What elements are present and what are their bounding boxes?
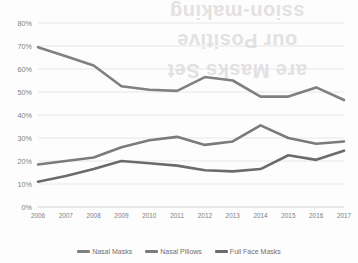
gridlines [38, 23, 344, 207]
y-axis-tick-label: 30% [18, 134, 33, 143]
x-axis-tick-label: 2009 [114, 212, 129, 219]
x-axis-tick-label: 2017 [337, 212, 352, 219]
x-axis-tick-label: 2013 [226, 212, 241, 219]
x-axis-tick-label: 2006 [31, 212, 46, 219]
x-axis-tick-label: 2010 [142, 212, 157, 219]
x-axis-tick-label: 2014 [253, 212, 268, 219]
x-axis-tick-label: 2016 [309, 212, 324, 219]
y-axis-tick-label: 20% [18, 157, 33, 166]
x-axis-tick-label: 2012 [198, 212, 213, 219]
y-axis-tick-labels: 0%10%20%30%40%50%60%70%80% [18, 19, 33, 212]
x-axis-tick-label: 2011 [170, 212, 184, 219]
data-series-lines [38, 47, 344, 182]
y-axis-tick-label: 10% [18, 180, 33, 189]
plot-area: 0%10%20%30%40%50%60%70%80% 2006200720082… [0, 0, 358, 263]
y-axis-tick-label: 60% [18, 65, 33, 74]
legend-swatch-icon [215, 250, 228, 253]
legend-label: Nasal Masks [92, 248, 132, 255]
y-axis-tick-label: 50% [18, 88, 33, 97]
legend-swatch-icon [145, 250, 158, 253]
legend-label: Nasal Pillows [160, 248, 202, 255]
legend-item-full-face-masks[interactable]: Full Face Masks [215, 248, 281, 255]
legend-swatch-icon [77, 250, 90, 253]
series-line-full-face-masks [38, 151, 344, 182]
legend-item-nasal-masks[interactable]: Nasal Masks [77, 248, 132, 255]
x-axis-tick-labels: 2006200720082009201020112012201320142015… [31, 212, 352, 219]
x-axis-tick-label: 2008 [87, 212, 102, 219]
chart-legend: Nasal MasksNasal PillowsFull Face Masks [0, 248, 358, 255]
x-axis-tick-label: 2007 [59, 212, 74, 219]
line-chart: ssion-making our Positive are Masks Set … [0, 0, 358, 263]
y-axis-tick-label: 0% [22, 203, 33, 212]
y-axis-tick-label: 80% [18, 19, 33, 28]
legend-item-nasal-pillows[interactable]: Nasal Pillows [145, 248, 202, 255]
y-axis-tick-label: 70% [18, 42, 33, 51]
y-axis-tick-label: 40% [18, 111, 33, 120]
series-line-nasal-pillows [38, 125, 344, 164]
legend-label: Full Face Masks [230, 248, 281, 255]
x-axis-tick-label: 2015 [281, 212, 296, 219]
